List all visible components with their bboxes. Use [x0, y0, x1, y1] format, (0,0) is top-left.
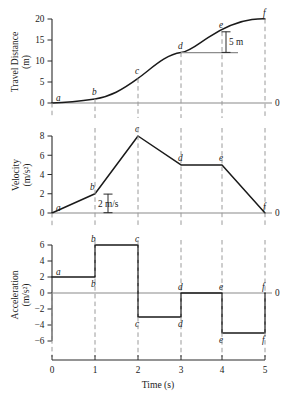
- velocity-point-label-c: c: [135, 124, 140, 134]
- velocity-point-label-e: e: [219, 153, 223, 163]
- distance-yticklabel-0: 0: [40, 98, 45, 108]
- time-ticklabel-1: 1: [93, 365, 98, 375]
- distance-point-label-c: c: [135, 66, 140, 76]
- acceleration-label-e-low: e: [219, 335, 223, 345]
- acceleration-label-c-high: c: [135, 234, 140, 244]
- distance-axis-title-line1: Travel Distance: [9, 32, 20, 93]
- time-ticklabel-3: 3: [179, 365, 184, 375]
- distance-axis-title-line2: (m): [20, 55, 32, 69]
- distance-yticklabel-20: 20: [35, 14, 45, 24]
- acceleration-yticklabel-2: 2: [40, 272, 45, 282]
- acceleration-yticklabel-m2: −2: [35, 304, 45, 314]
- velocity-baseline-zero-label: 0: [275, 208, 280, 218]
- acceleration-yticklabel-m4: −4: [35, 320, 45, 330]
- time-ticklabel-0: 0: [50, 365, 55, 375]
- panel-velocity: 8 6 4 2 0 Velocity (m/s²) 0 2 m/s a b c …: [10, 124, 280, 228]
- acceleration-yticklabel-6: 6: [40, 240, 45, 250]
- acceleration-label-a-start: a: [56, 267, 61, 277]
- acceleration-axis-title-line2: (m/s²): [20, 283, 32, 306]
- time-axis-title: Time (s): [142, 379, 174, 391]
- acceleration-yticklabel-m6: −6: [35, 336, 45, 346]
- figure-svg: 20 15 10 5 0 Travel Distance (m) 0 5 m a…: [0, 0, 288, 398]
- velocity-axis-title-line2: (m/s²): [21, 163, 33, 186]
- distance-point-label-f: f: [263, 8, 267, 18]
- acceleration-label-b-high: b: [91, 234, 96, 244]
- velocity-point-label-f: f: [263, 202, 267, 212]
- acceleration-label-d-zero: d: [178, 282, 183, 292]
- velocity-point-label-a: a: [56, 203, 61, 213]
- distance-yticklabel-5: 5: [40, 77, 45, 87]
- time-axis: 0 1 2 3 4 5 Time (s): [50, 355, 268, 391]
- kinematics-figure: 20 15 10 5 0 Travel Distance (m) 0 5 m a…: [0, 0, 288, 398]
- distance-annotation-5m: 5 m: [229, 37, 244, 47]
- velocity-axis-title-line1: Velocity: [10, 159, 21, 191]
- acceleration-label-b-low: b: [91, 279, 96, 289]
- distance-curve: [52, 19, 265, 103]
- distance-yticklabel-15: 15: [35, 35, 45, 45]
- velocity-yticklabel-8: 8: [40, 131, 45, 141]
- distance-yticklabel-10: 10: [35, 56, 45, 66]
- panel-travel-distance: 20 15 10 5 0 Travel Distance (m) 0 5 m a…: [9, 8, 280, 118]
- distance-baseline-zero-label: 0: [275, 98, 280, 108]
- acceleration-axis-title-line1: Acceleration: [9, 270, 20, 319]
- time-ticklabel-2: 2: [136, 365, 141, 375]
- acceleration-yticklabel-0: 0: [40, 288, 45, 298]
- distance-point-label-a: a: [56, 93, 61, 103]
- velocity-curve: [52, 136, 265, 213]
- time-ticklabel-5: 5: [263, 365, 268, 375]
- time-ticklabel-4: 4: [220, 365, 225, 375]
- distance-point-label-e: e: [219, 20, 223, 30]
- acceleration-label-c-low: c: [135, 319, 140, 329]
- velocity-point-label-b: b: [90, 182, 95, 192]
- acceleration-step-curve: [52, 245, 265, 333]
- acceleration-baseline-zero-label: 0: [275, 288, 280, 298]
- velocity-annotation-2ms: 2 m/s: [98, 199, 119, 209]
- acceleration-yticklabel-4: 4: [40, 256, 45, 266]
- acceleration-label-d-low: d: [178, 319, 183, 329]
- velocity-point-label-d: d: [178, 153, 183, 163]
- acceleration-label-e-zero: e: [219, 282, 223, 292]
- velocity-yticklabel-2: 2: [40, 189, 45, 199]
- velocity-yticklabel-6: 6: [40, 151, 45, 161]
- distance-point-label-b: b: [92, 87, 97, 97]
- distance-point-label-d: d: [178, 41, 183, 51]
- panel-acceleration: 6 4 2 0 −2 −4 −6 Acceleration (m/s²) 0 a…: [9, 234, 280, 357]
- velocity-yticklabel-4: 4: [40, 170, 45, 180]
- velocity-yticklabel-0: 0: [40, 208, 45, 218]
